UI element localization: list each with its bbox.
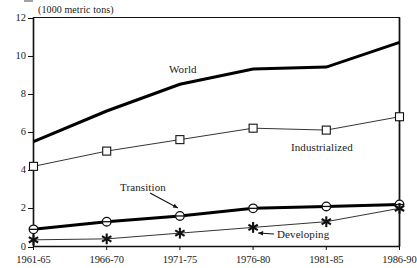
series-label-world: World <box>169 63 197 75</box>
arrow-transition-shaft <box>150 193 178 208</box>
series-transition <box>29 200 404 233</box>
marker-square <box>249 124 257 132</box>
series-label-industrialized: Industrialized <box>291 141 353 153</box>
marker-square <box>396 113 404 121</box>
arrow-developing-head <box>258 231 263 235</box>
marker-square <box>322 126 330 134</box>
marker-square <box>176 136 184 144</box>
marker-square <box>103 147 111 155</box>
marker-square <box>30 162 38 170</box>
series-label-transition: Transition <box>120 181 166 193</box>
series-line <box>34 205 400 230</box>
series-label-developing: Developing <box>277 228 329 240</box>
